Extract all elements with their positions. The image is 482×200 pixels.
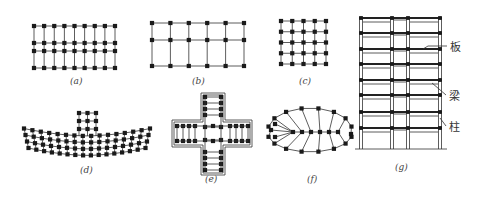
column-node (359, 16, 363, 20)
panel-a-grid (32, 24, 117, 70)
column-node (52, 41, 56, 45)
column-node (187, 38, 191, 42)
column-node (56, 138, 60, 142)
column-node (77, 127, 81, 131)
column-node (120, 150, 124, 154)
column-node (148, 126, 152, 130)
column-node (113, 41, 117, 45)
column-node (48, 137, 52, 141)
column-node (438, 126, 442, 130)
column-node (85, 127, 89, 131)
column-node (89, 153, 93, 157)
column-node (40, 136, 44, 140)
column-node (89, 147, 93, 151)
column-node (128, 149, 132, 153)
column-node (34, 148, 38, 152)
grid-line (318, 132, 320, 152)
column-node (41, 143, 45, 147)
column-node (130, 136, 134, 140)
column-node (224, 38, 228, 42)
column-node (349, 132, 353, 136)
column-node (81, 147, 85, 151)
column-node (93, 41, 97, 45)
column-node (52, 66, 56, 70)
grid-line (318, 149, 333, 152)
column-node (123, 131, 127, 135)
column-node (291, 130, 295, 134)
column-node (62, 49, 66, 53)
column-node (343, 141, 347, 145)
grid-line (318, 108, 333, 111)
column-node (324, 40, 328, 44)
column-node (94, 111, 98, 115)
column-node (290, 62, 294, 66)
column-node (390, 31, 394, 35)
column-node (22, 126, 26, 130)
column-node (318, 130, 322, 134)
column-node (168, 21, 172, 25)
panel-e-cross-grid (172, 93, 252, 175)
grid-line (302, 132, 311, 152)
column-node (290, 40, 294, 44)
column-node (64, 139, 68, 143)
column-node (438, 47, 442, 51)
column-node (30, 128, 34, 132)
grid-line (286, 108, 301, 111)
column-node (359, 78, 363, 82)
column-node (299, 106, 303, 110)
column-node (103, 49, 107, 53)
column-node (301, 40, 305, 44)
column-node (279, 51, 283, 55)
column-node (32, 24, 36, 28)
column-node (42, 149, 46, 153)
caption-b: (b) (192, 76, 205, 86)
column-node (83, 41, 87, 45)
column-node (93, 66, 97, 70)
column-node (23, 133, 27, 137)
column-node (290, 30, 294, 34)
column-node (205, 21, 209, 25)
column-node (272, 116, 276, 120)
column-node (32, 135, 36, 139)
column-node (284, 110, 288, 114)
structural-diagram: (a) (b) (c) (d) (e) (f) (g) 板 梁 柱 (0, 0, 482, 200)
column-node (62, 41, 66, 45)
column-node (406, 78, 410, 82)
column-node (73, 140, 77, 144)
column-node (438, 16, 442, 20)
column-node (98, 133, 102, 137)
caption-a: (a) (70, 76, 83, 86)
column-node (113, 145, 117, 149)
column-node (85, 119, 89, 123)
column-node (242, 64, 246, 68)
column-node (131, 130, 135, 134)
column-node (42, 66, 46, 70)
column-node (279, 30, 283, 34)
column-node (62, 24, 66, 28)
column-node (211, 124, 215, 128)
caption-f: (f) (307, 174, 318, 184)
column-node (73, 153, 77, 157)
column-node (168, 38, 172, 42)
label-beam: 梁 (449, 89, 460, 103)
column-node (406, 16, 410, 20)
column-node (113, 24, 117, 28)
column-node (316, 150, 320, 154)
column-node (129, 143, 133, 147)
column-node (224, 64, 228, 68)
column-node (83, 49, 87, 53)
column-node (313, 40, 317, 44)
column-node (105, 139, 109, 143)
column-node (290, 51, 294, 55)
column-node (359, 126, 363, 130)
column-node (300, 130, 304, 134)
column-node (94, 119, 98, 123)
column-node (390, 62, 394, 66)
column-node (406, 110, 410, 114)
column-node (313, 30, 317, 34)
column-node (309, 130, 313, 134)
label-slab: 板 (450, 40, 461, 54)
column-node (390, 16, 394, 20)
column-node (103, 41, 107, 45)
column-node (343, 116, 347, 120)
